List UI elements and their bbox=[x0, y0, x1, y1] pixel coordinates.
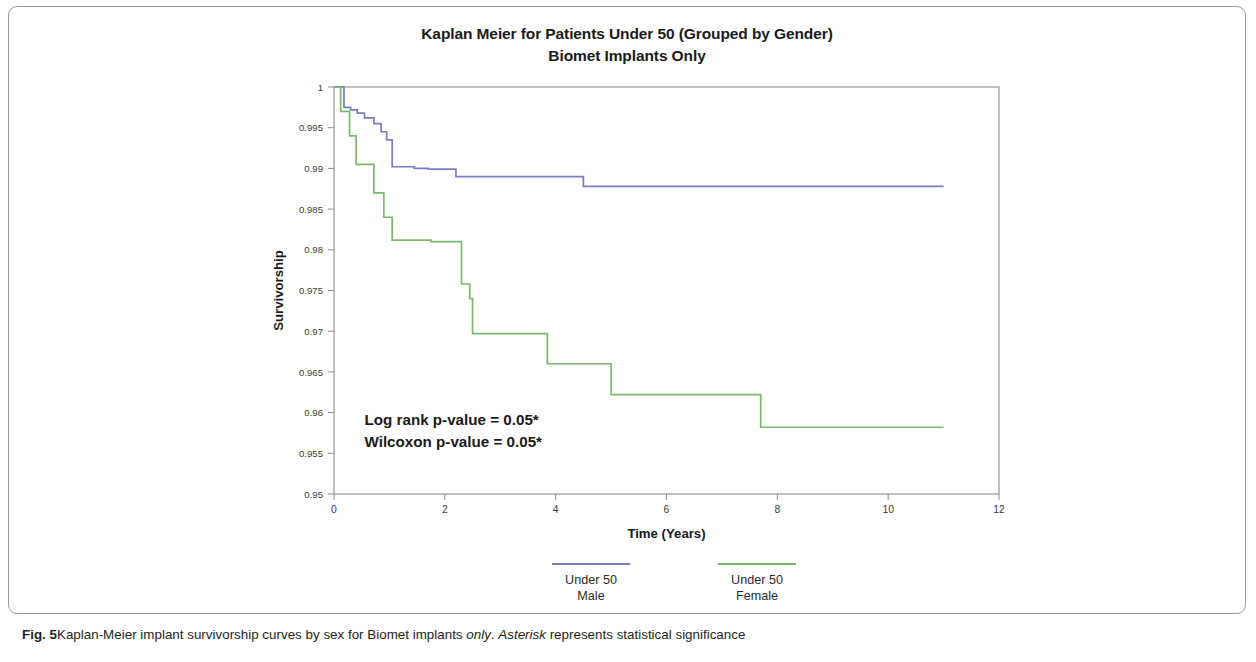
curve-series-0 bbox=[334, 87, 944, 186]
legend-label-female-line1: Under 50 bbox=[731, 572, 783, 588]
figure-page: Kaplan Meier for Patients Under 50 (Grou… bbox=[0, 0, 1256, 662]
x-tick-label: 6 bbox=[664, 504, 670, 515]
x-tick-label: 10 bbox=[882, 504, 894, 515]
y-tick-label: 0.98 bbox=[304, 244, 323, 255]
y-tick-label: 0.975 bbox=[299, 285, 323, 296]
caption-italic-only: only bbox=[466, 627, 491, 642]
y-axis-title: Survivorship bbox=[271, 250, 286, 331]
legend-item-male: Under 50 Male bbox=[536, 563, 646, 604]
y-tick-label: 0.96 bbox=[304, 407, 323, 418]
y-tick-label: 0.995 bbox=[299, 122, 323, 133]
caption-text-3: represents statistical significance bbox=[546, 627, 745, 642]
y-tick-label: 0.985 bbox=[299, 204, 323, 215]
legend-label-male-line1: Under 50 bbox=[565, 572, 617, 588]
chart-legend: Under 50 Male Under 50 Female bbox=[514, 563, 834, 604]
kaplan-meier-plot: 0.950.9550.960.9650.970.9750.980.9850.99… bbox=[9, 7, 1256, 615]
legend-label-female-line2: Female bbox=[731, 588, 783, 604]
y-tick-label: 1 bbox=[318, 82, 323, 93]
legend-swatch-female bbox=[718, 563, 796, 565]
y-tick-label: 0.95 bbox=[304, 489, 323, 500]
figure-caption: Fig. 5Kaplan-Meier implant survivorship … bbox=[22, 626, 1222, 643]
legend-label-male: Under 50 Male bbox=[565, 572, 617, 604]
x-axis-title: Time (Years) bbox=[627, 526, 705, 541]
figure-number: Fig. 5 bbox=[22, 627, 57, 642]
legend-item-female: Under 50 Female bbox=[702, 563, 812, 604]
y-tick-label: 0.97 bbox=[304, 326, 323, 337]
legend-swatch-male bbox=[552, 563, 630, 565]
y-tick-label: 0.99 bbox=[304, 163, 323, 174]
y-tick-label: 0.965 bbox=[299, 367, 323, 378]
x-tick-label: 4 bbox=[553, 504, 559, 515]
curve-series-1 bbox=[334, 87, 944, 427]
y-tick-label: 0.955 bbox=[299, 448, 323, 459]
x-tick-label: 2 bbox=[442, 504, 448, 515]
x-tick-label: 12 bbox=[993, 504, 1005, 515]
annotation-1: Wilcoxon p-value = 0.05* bbox=[364, 433, 542, 450]
x-tick-label: 8 bbox=[774, 504, 780, 515]
caption-text-1: Kaplan-Meier implant survivorship curves… bbox=[57, 627, 466, 642]
legend-label-male-line2: Male bbox=[565, 588, 617, 604]
caption-italic-asterisk: Asterisk bbox=[498, 627, 546, 642]
x-tick-label: 0 bbox=[331, 504, 337, 515]
legend-label-female: Under 50 Female bbox=[731, 572, 783, 604]
annotation-0: Log rank p-value = 0.05* bbox=[364, 411, 538, 428]
figure-panel: Kaplan Meier for Patients Under 50 (Grou… bbox=[8, 6, 1246, 614]
